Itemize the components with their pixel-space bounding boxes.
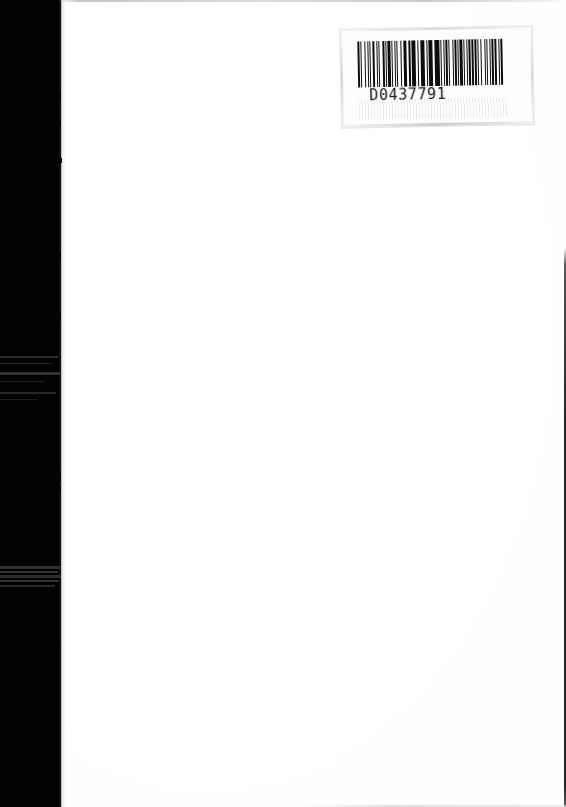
scan-streak [0, 399, 38, 400]
scan-streak [0, 392, 56, 394]
shadow-edge-nub [56, 92, 61, 100]
scan-streak [0, 580, 59, 582]
shadow-edge-nub [56, 640, 60, 646]
shadow-edge-nub [57, 486, 61, 493]
scanner-shadow-band [0, 0, 61, 807]
scanned-page: D0437791 [0, 0, 566, 807]
barcode-label: D0437791 [340, 26, 534, 128]
scan-streak [0, 566, 60, 569]
shadow-edge-nub [55, 470, 61, 482]
shadow-edge-nub [55, 157, 62, 164]
barcode-number-text: D0437791 [369, 85, 446, 104]
scan-streak [0, 381, 44, 382]
scan-streak [0, 575, 61, 578]
shadow-edge-nub [56, 312, 61, 322]
scan-streak [0, 363, 52, 364]
shadow-edge-nub [57, 251, 61, 260]
barcode-bars [357, 39, 504, 88]
scan-streak [0, 356, 58, 358]
scan-streak [0, 571, 58, 573]
page-top-edge-line [58, 0, 566, 2]
shadow-edge-nub [57, 120, 61, 126]
scan-streak [0, 585, 55, 587]
barcode-space [502, 39, 504, 85]
page-body-text [80, 160, 540, 760]
scan-streak [0, 372, 60, 375]
